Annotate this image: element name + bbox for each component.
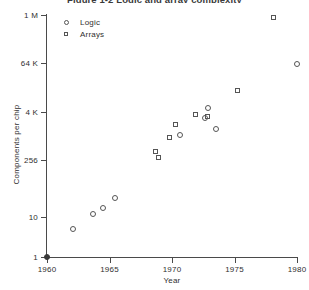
plot-area: 1102564 K64 K1 M 19601965197019751980 Co…: [0, 0, 309, 290]
x-tick-label: 1965: [100, 265, 119, 274]
y-tick-label: 4 K: [25, 107, 38, 116]
y-tick-mark: [41, 160, 46, 161]
x-tick-label: 1975: [225, 265, 244, 274]
data-point-logic: [100, 205, 106, 211]
data-point-arrays: [173, 122, 178, 127]
data-point-logic: [213, 126, 219, 132]
y-tick-label: 1 M: [24, 11, 38, 20]
y-tick-mark: [41, 15, 46, 16]
data-point-logic: [70, 226, 76, 232]
y-tick-label: 64 K: [21, 59, 38, 68]
y-axis-line: [46, 14, 47, 258]
circle-marker-icon: [64, 20, 76, 25]
y-tick-label: 10: [29, 212, 38, 221]
x-tick-mark: [297, 258, 298, 263]
x-tick-label: 1970: [163, 265, 182, 274]
x-tick-label: 1980: [288, 265, 307, 274]
y-tick-mark: [41, 217, 46, 218]
legend-item-arrays: Arrays: [64, 28, 104, 40]
chart-legend: LogicArrays: [64, 16, 104, 40]
data-point-arrays: [205, 114, 210, 119]
x-tick-mark: [172, 258, 173, 263]
data-point-logic: [90, 211, 96, 217]
y-tick-mark: [41, 63, 46, 64]
chart-page: Figure 1-2 Logic and array complexity 11…: [0, 0, 309, 290]
x-tick-label: 1960: [38, 265, 57, 274]
data-point-arrays: [153, 149, 158, 154]
x-tick-mark: [110, 258, 111, 263]
data-point-logic: [44, 254, 50, 260]
data-point-logic: [294, 61, 300, 67]
data-point-logic: [112, 195, 118, 201]
data-point-logic: [177, 132, 183, 138]
data-point-arrays: [156, 155, 161, 160]
data-point-arrays: [167, 135, 172, 140]
data-point-arrays: [271, 15, 276, 20]
legend-label: Arrays: [80, 30, 104, 39]
x-axis-title: Year: [46, 276, 298, 285]
y-axis-title: Components per chip: [12, 85, 21, 205]
y-tick-label: 1: [33, 253, 38, 262]
square-marker-icon: [64, 32, 76, 36]
legend-label: Logic: [80, 18, 100, 27]
data-point-arrays: [193, 112, 198, 117]
y-tick-label: 256: [24, 156, 38, 165]
legend-item-logic: Logic: [64, 16, 104, 28]
data-point-logic: [205, 105, 211, 111]
x-tick-mark: [235, 258, 236, 263]
data-point-arrays: [235, 88, 240, 93]
y-tick-mark: [41, 112, 46, 113]
